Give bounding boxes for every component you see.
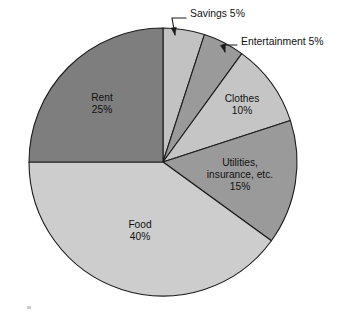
pie-chart-figure: Savings 5%Entertainment 5%Clothes10%Util… <box>0 0 351 314</box>
scan-artifact-mark <box>27 306 31 309</box>
slice-label-rent: Rent25% <box>91 92 113 115</box>
pie-chart-canvas: Savings 5%Entertainment 5%Clothes10%Util… <box>0 0 351 314</box>
slice-label-entertainment: Entertainment 5% <box>241 36 324 47</box>
slice-label-savings: Savings 5% <box>190 8 245 19</box>
slice-label-food: Food40% <box>128 219 152 242</box>
